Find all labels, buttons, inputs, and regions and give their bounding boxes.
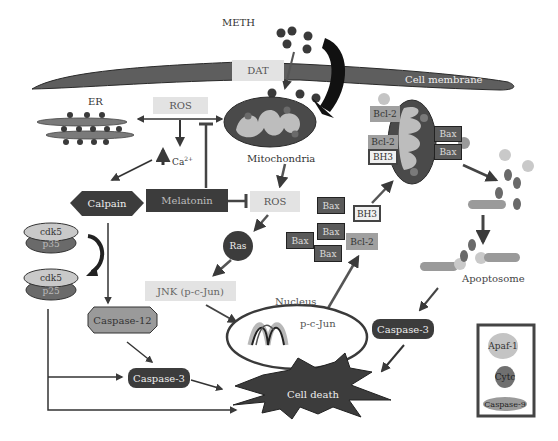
nucleus-label: Nucleus xyxy=(275,296,316,307)
bax-mito-1-box: Bax xyxy=(434,126,462,142)
ros-mid-box: ROS xyxy=(250,191,300,212)
dat-box: DAT xyxy=(232,60,284,81)
caspase3-right-label: Caspase-3 xyxy=(377,324,429,335)
bax-cyto-1-label: Bax xyxy=(322,201,339,211)
ras-label: Ras xyxy=(224,240,252,252)
p35-label: p35 xyxy=(26,238,76,250)
melatonin-box: Melatonin xyxy=(146,189,228,212)
bax-mito-1-label: Bax xyxy=(439,129,456,139)
bh3-cyto-label: BH3 xyxy=(357,209,377,219)
bcl2-top-label: Bcl-2 xyxy=(373,109,396,119)
bax-cyto-2-box: Bax xyxy=(317,223,345,240)
bh3-mito-label: BH3 xyxy=(373,152,393,162)
bax-cyto-4-label: Bax xyxy=(319,249,336,259)
ros-mid-label: ROS xyxy=(264,196,287,207)
ros-top-box: ROS xyxy=(153,97,208,114)
bcl2-mid-label: Bcl-2 xyxy=(371,137,394,147)
cell-membrane-label: Cell membrane xyxy=(405,74,483,85)
cell-death-label: Cell death xyxy=(280,387,346,401)
bax-cyto-3-box: Bax xyxy=(286,232,314,249)
bax-cyto-2-label: Bax xyxy=(322,227,339,237)
ros-top-label: ROS xyxy=(169,100,192,111)
bax-cyto-1-box: Bax xyxy=(317,197,345,214)
cdk5-p35-top-label: cdk5 xyxy=(26,226,76,238)
p25-label: p25 xyxy=(26,285,76,297)
jnk-box: JNK (p-c-Jun) xyxy=(145,281,236,301)
caspase3-left-box: Caspase-3 xyxy=(128,368,190,388)
legend-apaf1-label: Apaf-1 xyxy=(484,340,522,352)
er-icon xyxy=(37,112,134,145)
mitochondria-icon xyxy=(224,97,316,147)
apoptosome-label: Apoptosome xyxy=(462,273,525,284)
bax-cyto-3-label: Bax xyxy=(291,236,308,246)
melatonin-label: Melatonin xyxy=(161,195,212,206)
bcl2-cyto-box: Bcl-2 xyxy=(346,233,378,250)
caspase3-left-label: Caspase-3 xyxy=(133,373,185,384)
calcium-label: Ca2+ xyxy=(172,155,193,167)
pathway-diagram: METH DAT Cell membrane ER ROS Ca2+ Mitoc… xyxy=(0,0,558,441)
jnk-label: JNK (p-c-Jun) xyxy=(157,286,224,297)
pcjun-label: p-c-Jun xyxy=(300,318,336,329)
er-label: ER xyxy=(88,96,103,107)
mitochondria-label: Mitochondria xyxy=(247,153,315,164)
bcl2-cyto-label: Bcl-2 xyxy=(350,237,373,247)
bax-cyto-4-box: Bax xyxy=(314,245,342,262)
bh3-cyto-box: BH3 xyxy=(353,205,381,222)
caspase3-right-box: Caspase-3 xyxy=(372,319,434,339)
legend-caspase9-label: Caspase-9 xyxy=(482,398,528,410)
legend-cytc-label: Cytc xyxy=(490,371,520,383)
apoptosome-icon xyxy=(420,239,520,271)
bax-mito-2-label: Bax xyxy=(439,147,456,157)
caspase12-label: Caspase-12 xyxy=(88,313,157,327)
bcl2-mid-box: Bcl-2 xyxy=(368,135,398,149)
bax-mito-2-box: Bax xyxy=(434,144,462,160)
calpain-label: Calpain xyxy=(76,196,138,210)
dat-label: DAT xyxy=(247,65,268,76)
bcl2-top-box: Bcl-2 xyxy=(370,106,400,122)
meth-label: METH xyxy=(222,17,255,28)
released-factors xyxy=(468,149,534,210)
bh3-mito-box: BH3 xyxy=(368,149,398,165)
cdk5-p25-top-label: cdk5 xyxy=(26,272,76,284)
